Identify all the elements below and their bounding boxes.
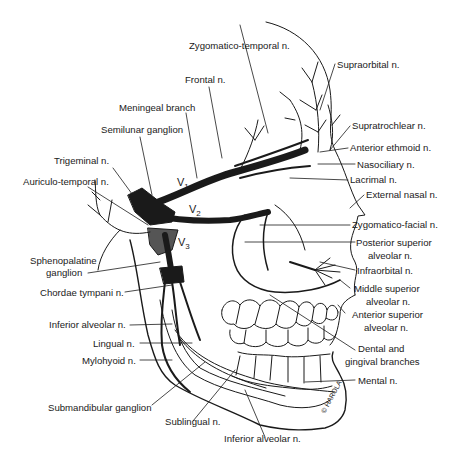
- label-zygomatico-temporal: Zygomatico-temporal n.: [189, 40, 290, 51]
- label-semilunar-ganglion: Semilunar ganglion: [101, 124, 183, 135]
- supraorbital-branch: [300, 62, 326, 152]
- label-mental: Mental n.: [358, 375, 397, 386]
- label-supraorbital: Supraorbital n.: [337, 59, 399, 70]
- ganglion-hatch: [148, 228, 178, 255]
- label-auriculo-temporal: Auriculo-temporal n.: [23, 176, 109, 187]
- label-anterior-superior-line1: Anterior superior: [352, 309, 423, 320]
- label-chordae-tympani: Chordae tympani n.: [40, 287, 124, 298]
- label-middle-superior-line2: alveolar n.: [366, 296, 410, 307]
- label-dental-gingival-line1: Dental and: [358, 343, 404, 354]
- label-inferior-alveolar-bottom: Inferior alveolar n.: [224, 433, 301, 444]
- label-nasociliary: Nasociliary n.: [357, 159, 415, 170]
- label-middle-superior-line1: Middle superior: [354, 283, 420, 294]
- ophthalmic-trunk: [150, 150, 305, 205]
- label-zygomatico-facial: Zygomatico-facial n.: [352, 219, 438, 230]
- label-trigeminal: Trigeminal n.: [54, 155, 109, 166]
- division-v2-label: V2: [189, 203, 201, 218]
- label-inferior-alveolar-left: Inferior alveolar n.: [49, 319, 126, 330]
- label-lacrimal: Lacrimal n.: [350, 174, 397, 185]
- label-lingual: Lingual n.: [93, 338, 135, 349]
- label-anterior-superior-line2: alveolar n.: [364, 322, 408, 333]
- division-v1-label: V1: [177, 176, 189, 191]
- label-anterior-ethmoid: Anterior ethmoid n.: [350, 142, 431, 153]
- label-sphenopalatine-line2: ganglion: [46, 267, 82, 278]
- label-dental-gingival-line2: gingival branches: [345, 356, 420, 367]
- label-sphenopalatine-line1: Sphenopalatine: [30, 255, 97, 266]
- label-posterior-superior-line1: Posterior superior: [356, 237, 432, 248]
- lower-teeth: [232, 352, 332, 389]
- trigeminal-nerve-diagram: V1 V2 V3 Zygomatico-temporal n. Frontal …: [0, 0, 457, 470]
- label-meningeal-branch: Meningeal branch: [119, 102, 195, 113]
- leader-lines: [88, 25, 364, 437]
- label-frontal: Frontal n.: [185, 74, 226, 85]
- label-posterior-superior-line2: alveolar n.: [368, 250, 412, 261]
- label-mylohyoid: Mylohyoid n.: [82, 355, 136, 366]
- label-submandibular-ganglion: Submandibular ganglion: [48, 402, 151, 413]
- upper-teeth: [222, 300, 338, 347]
- label-external-nasal: External nasal n.: [366, 189, 437, 200]
- label-supratrochlear: Supratrochlear n.: [352, 120, 426, 131]
- label-infraorbital: Infraorbital n.: [357, 265, 413, 276]
- label-sublingual: Sublingual n.: [165, 416, 220, 427]
- anatomy-drawing: [0, 0, 457, 470]
- division-v3-label: V3: [178, 236, 190, 251]
